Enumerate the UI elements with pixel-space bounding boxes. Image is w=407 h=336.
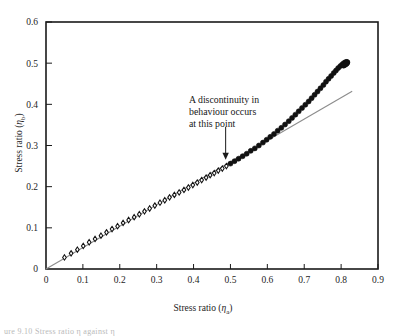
y-axis-tick-labels: 00.10.20.30.40.50.6 <box>26 17 38 274</box>
annotation-line-2: behaviour occurs <box>189 106 256 117</box>
data-point-open <box>225 163 229 168</box>
plot-frame <box>46 22 378 269</box>
x-tick-label: 0.8 <box>335 275 347 285</box>
x-tick-label: 0.6 <box>261 275 273 285</box>
x-tick-label: 0.7 <box>298 275 310 285</box>
y-tick-label: 0.1 <box>26 223 38 233</box>
data-point-open <box>143 209 147 214</box>
x-tick-label: 0.2 <box>114 275 126 285</box>
annotation-line-3: at this point <box>189 118 236 129</box>
data-point-open <box>168 195 172 200</box>
x-axis-title-text: Stress ratio ( <box>173 303 221 314</box>
plot-area-border <box>46 22 378 269</box>
y-axis-title-text: Stress ratio ( <box>14 125 25 173</box>
y-tick-label: 0.3 <box>26 141 38 151</box>
x-tick-label: 0 <box>44 275 49 285</box>
y-tick-label: 0.6 <box>26 17 38 27</box>
y-tick-label: 0.4 <box>26 100 38 110</box>
annotation-arrow <box>222 127 228 160</box>
y-axis-title-close: ) <box>14 113 25 116</box>
data-point-open <box>221 166 225 171</box>
x-tick-label: 0.9 <box>372 275 384 285</box>
x-tick-label: 0.5 <box>225 275 237 285</box>
y-axis-title: Stress ratio (ηb) <box>14 113 27 172</box>
annotation-text-block: A discontinuity in behaviour occurs at t… <box>189 94 259 129</box>
y-tick-label: 0.2 <box>26 182 38 192</box>
annotation-line-1: A discontinuity in <box>189 94 259 105</box>
x-axis-title: Stress ratio (ηa) <box>173 303 232 316</box>
data-point-open <box>153 203 157 208</box>
data-point-series <box>63 59 350 260</box>
data-point-open <box>163 198 167 203</box>
data-point-filled <box>341 63 346 68</box>
data-point-open <box>158 200 162 205</box>
x-tick-label: 0.3 <box>151 275 163 285</box>
data-point-open <box>148 206 152 211</box>
x-axis-title-close: ) <box>229 303 232 314</box>
x-tick-label: 0.1 <box>77 275 89 285</box>
arrow-head <box>222 153 228 160</box>
figure-caption: ure 9.10 Stress ratio η against η <box>4 327 115 336</box>
y-tick-label: 0.5 <box>26 59 38 69</box>
x-axis-tick-labels: 00.10.20.30.40.50.60.70.80.9 <box>44 275 385 285</box>
x-tick-label: 0.4 <box>188 275 200 285</box>
y-axis-ticks <box>46 22 52 228</box>
data-point-open <box>173 192 177 197</box>
y-tick-label: 0 <box>33 264 38 274</box>
